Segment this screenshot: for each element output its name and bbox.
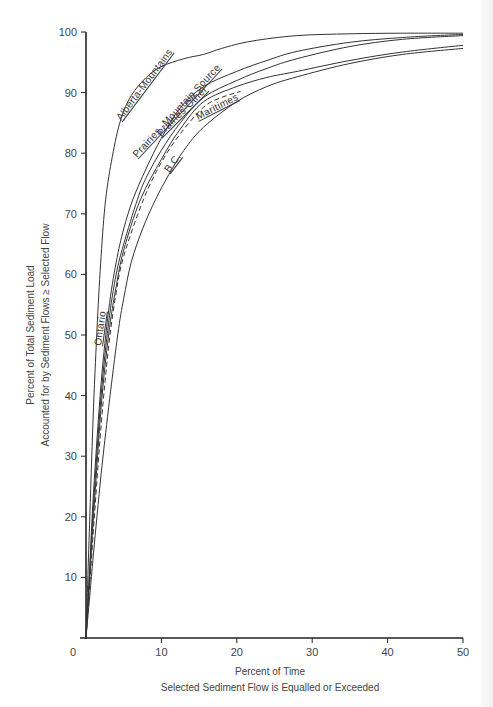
curves <box>86 33 463 638</box>
y-tick-label: 40 <box>65 390 77 402</box>
x-tick-label: 30 <box>306 646 318 658</box>
x-tick-label: 50 <box>457 646 469 658</box>
x-axis-subtitle: Selected Sediment Flow is Equalled or Ex… <box>161 682 379 693</box>
y-tick-label: 50 <box>65 329 77 341</box>
x-tick-label: 0 <box>70 646 76 658</box>
curve-label-alberta-mountains: Alberta-Mountains <box>114 47 175 123</box>
x-tick-label: 40 <box>381 646 393 658</box>
y-tick-label: 100 <box>59 26 77 38</box>
curve-prairies-other <box>86 36 463 638</box>
curve-b-c <box>86 48 463 638</box>
y-tick-label: 20 <box>65 511 77 523</box>
y-axis-title: Percent of Total Sediment Load <box>25 265 36 404</box>
y-tick-label: 60 <box>65 268 77 280</box>
curve-alberta-mountains <box>86 33 463 638</box>
y-tick-label: 90 <box>65 87 77 99</box>
curve-label-b-c: B.C. <box>162 151 183 174</box>
curve-maritimes <box>86 45 463 638</box>
y-tick-label: 80 <box>65 147 77 159</box>
y-tick-label: 70 <box>65 208 77 220</box>
y-tick-label: 10 <box>65 571 77 583</box>
x-tick-label: 10 <box>155 646 167 658</box>
axes <box>80 32 463 639</box>
x-tick-label: 20 <box>231 646 243 658</box>
curve-prairies-mountain-source <box>86 34 463 638</box>
sediment-flow-chart: 10203040506070809010001020304050 Alberta… <box>0 0 493 707</box>
y-tick-label: 30 <box>65 450 77 462</box>
y-axis-subtitle: Accounted for by Sediment Flows ≥ Select… <box>40 223 51 447</box>
x-axis-title: Percent of Time <box>235 666 305 677</box>
